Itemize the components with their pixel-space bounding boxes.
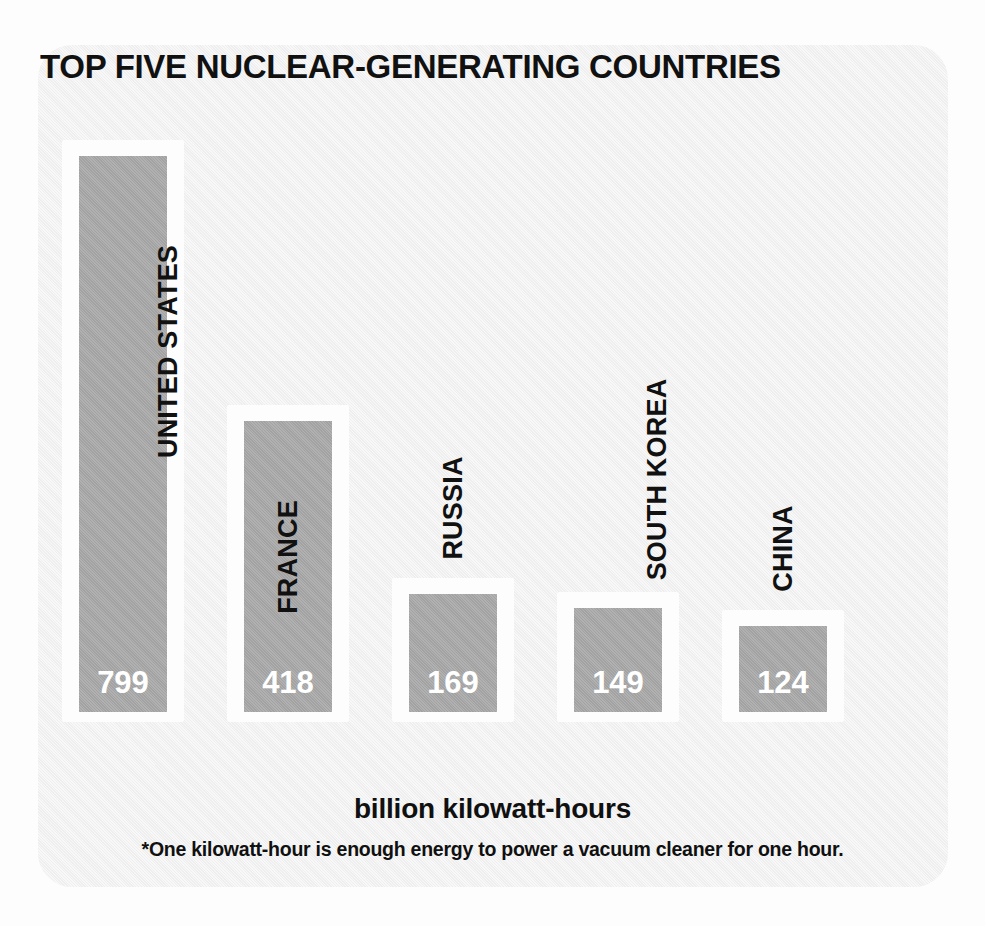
bar-value-label: 169 [409, 667, 497, 698]
bar-frame: 124 [722, 610, 844, 722]
bar-group: 149SOUTH KOREA [557, 332, 679, 722]
bar-category-label: UNITED STATES [62, 234, 184, 469]
bar-value-label: 799 [79, 667, 167, 698]
bar-category-label: CHINA [722, 499, 844, 598]
axis-caption: billion kilowatt-hours [0, 793, 985, 825]
bar-chart-plot-area: 799UNITED STATES418FRANCE169RUSSIA149SOU… [0, 0, 910, 842]
bar-category-label: RUSSIA [392, 450, 514, 566]
bar-group: 418FRANCE [227, 145, 349, 722]
bar-value-label: 418 [244, 667, 332, 698]
bar-category-text: FRANCE [230, 500, 346, 614]
bar-category-label: SOUTH KOREA [557, 379, 679, 580]
bar-frame: 149 [557, 592, 679, 722]
footnote: *One kilowatt-hour is enough energy to p… [0, 838, 985, 861]
infographic-root: TOP FIVE NUCLEAR-GENERATING COUNTRIES 79… [0, 0, 985, 926]
bar-value-label: 149 [574, 667, 662, 698]
bar-value-label: 124 [739, 667, 827, 698]
bar-fill[interactable]: 149 [574, 608, 662, 712]
bar-group: 124CHINA [722, 350, 844, 722]
bar-fill[interactable]: 124 [739, 626, 827, 712]
bar-category-text: RUSSIA [395, 456, 511, 559]
bar-group: 169RUSSIA [392, 318, 514, 722]
chart-title: TOP FIVE NUCLEAR-GENERATING COUNTRIES [40, 48, 858, 86]
bar-fill[interactable]: 169 [409, 594, 497, 712]
bar-group: 799UNITED STATES [62, 0, 184, 722]
bar-category-text: CHINA [734, 505, 833, 592]
bar-category-label: FRANCE [227, 499, 349, 615]
bar-frame: 169 [392, 578, 514, 722]
